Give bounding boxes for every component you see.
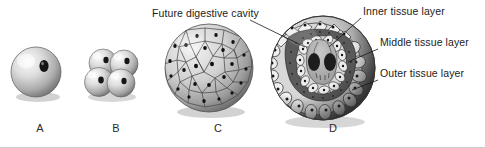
label-inner-tissue-layer: Inner tissue layer: [363, 5, 445, 17]
label-middle-tissue-layer: Middle tissue layer: [380, 36, 469, 48]
stage-letter-c: C: [208, 122, 228, 134]
stage-b-four-cell: [85, 49, 139, 102]
label-future-digestive-cavity: Future digestive cavity: [152, 7, 259, 19]
embryonic-development-figure: Future digestive cavity Inner tissue lay…: [0, 0, 485, 148]
stage-letter-a: A: [30, 122, 50, 134]
nucleus: [39, 60, 48, 72]
label-outer-tissue-layer: Outer tissue layer: [380, 67, 464, 79]
stage-c-blastula: [164, 24, 253, 118]
stage-a-zygote: [11, 47, 61, 102]
stage-d-gastrula: [261, 16, 375, 128]
stage-letter-b: B: [106, 122, 126, 134]
stage-letter-d: D: [323, 122, 343, 134]
